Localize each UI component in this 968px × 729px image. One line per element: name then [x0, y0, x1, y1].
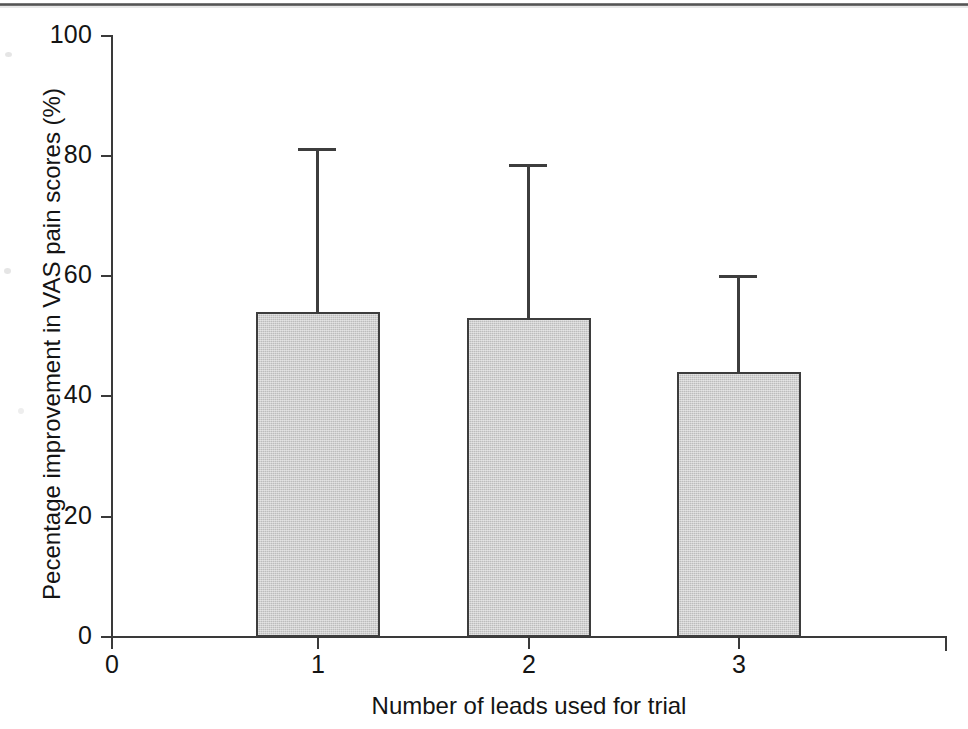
x-tick-2: [528, 638, 530, 649]
bar-leads-3: [677, 372, 801, 637]
y-tick-60: [101, 275, 112, 277]
error-bar-stem-leads-1: [316, 148, 319, 314]
x-tick-label-1: 1: [288, 651, 348, 679]
y-axis-title: Pecentage improvement in VAS pain scores…: [38, 34, 66, 654]
error-bar-cap-leads-2: [509, 164, 547, 167]
x-axis-title: Number of leads used for trial: [111, 692, 947, 720]
x-tick-label-3: 3: [709, 651, 769, 679]
x-axis-end-tick: [945, 638, 947, 651]
x-tick-label-0: 0: [82, 651, 142, 679]
error-bar-stem-leads-2: [527, 164, 530, 320]
bar-leads-1: [256, 312, 380, 637]
y-tick-80: [101, 155, 112, 157]
error-bar-cap-leads-1: [298, 148, 336, 151]
error-bar-cap-leads-3: [719, 275, 757, 278]
y-axis-line: [111, 35, 113, 638]
plot-area: 100 80 60 40 20 0 0 1 2 3: [0, 0, 968, 729]
y-tick-20: [101, 516, 112, 518]
x-tick-0: [111, 638, 113, 649]
figure-canvas: 100 80 60 40 20 0 0 1 2 3: [0, 0, 968, 729]
error-bar-stem-leads-3: [737, 275, 740, 374]
x-tick-3: [738, 638, 740, 649]
y-tick-40: [101, 395, 112, 397]
bar-leads-2: [467, 318, 591, 637]
y-tick-100: [101, 35, 112, 37]
x-tick-label-2: 2: [499, 651, 559, 679]
x-tick-1: [317, 638, 319, 649]
